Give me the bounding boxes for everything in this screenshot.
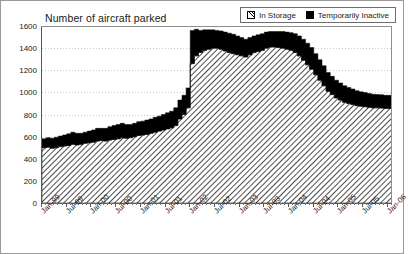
x-axis-minor-tick (358, 203, 359, 205)
x-axis-minor-tick (57, 203, 58, 205)
x-axis-minor-tick (206, 203, 207, 205)
stacked-area-series (42, 26, 392, 203)
x-axis-minor-tick (136, 203, 137, 205)
x-axis-minor-tick (309, 203, 310, 205)
x-axis-minor-tick (107, 203, 108, 205)
y-axis-tick-label: 1000 (19, 88, 37, 97)
hatch-swatch-icon (247, 11, 255, 19)
x-axis-minor-tick (259, 203, 260, 205)
y-axis: 02004006008001000120014001600 (1, 26, 37, 203)
x-axis-minor-tick (235, 203, 236, 205)
x-axis-minor-tick (230, 203, 231, 205)
y-axis-tick-label: 400 (24, 154, 37, 163)
y-axis-tick-label: 200 (24, 176, 37, 185)
x-axis-minor-tick (305, 203, 306, 205)
legend-item-temporarily-inactive: Temporarily Inactive (306, 11, 389, 20)
legend-item-in-storage: In Storage (247, 11, 296, 20)
series-in-storage (42, 47, 392, 203)
y-axis-tick-label: 600 (24, 132, 37, 141)
plot-frame-right (391, 26, 392, 204)
x-axis-minor-tick (62, 203, 63, 205)
y-axis-tick-label: 800 (24, 110, 37, 119)
x-axis-minor-tick (354, 203, 355, 205)
chart-legend: In Storage Temporarily Inactive (240, 7, 396, 23)
y-axis-tick-label: 1200 (19, 66, 37, 75)
x-axis-minor-tick (111, 203, 112, 205)
plot-area (41, 26, 392, 204)
y-axis-tick-label: 1600 (19, 22, 37, 31)
x-axis-minor-tick (160, 203, 161, 205)
y-axis-tick-label: 1400 (19, 44, 37, 53)
x-axis-minor-tick (132, 203, 133, 205)
x-axis-minor-tick (210, 203, 211, 205)
y-axis-tick-label: 0 (33, 199, 37, 208)
solid-black-swatch-icon (306, 11, 314, 19)
x-axis-minor-tick (284, 203, 285, 205)
plot-frame-top (41, 26, 392, 27)
legend-label-temporarily-inactive: Temporarily Inactive (318, 11, 389, 20)
x-axis-minor-tick (333, 203, 334, 205)
x-axis-minor-tick (185, 203, 186, 205)
x-axis-minor-tick (86, 203, 87, 205)
chart-title: Number of aircraft parked (45, 12, 167, 24)
x-axis-minor-tick (383, 203, 384, 205)
legend-label-in-storage: In Storage (259, 11, 296, 20)
x-axis-minor-tick (280, 203, 281, 205)
x-axis-minor-tick (379, 203, 380, 205)
